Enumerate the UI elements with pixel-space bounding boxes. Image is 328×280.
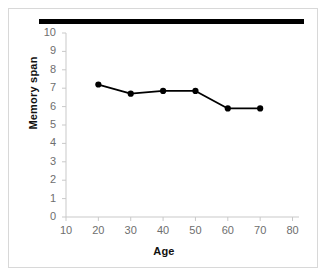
x-tick-label: 80 <box>281 224 305 236</box>
y-tick-label: 5 <box>34 118 56 130</box>
axis-lines <box>66 33 299 217</box>
y-tick-label: 10 <box>34 26 56 38</box>
y-tick-label: 4 <box>34 136 56 148</box>
x-tick-label: 40 <box>151 224 175 236</box>
x-tick-label: 70 <box>248 224 272 236</box>
x-axis-label: Age <box>9 245 319 257</box>
y-tick-label: 1 <box>34 192 56 204</box>
y-tick-label: 0 <box>34 210 56 222</box>
y-tick-label: 2 <box>34 173 56 185</box>
series-markers <box>95 81 263 111</box>
x-tick-label: 30 <box>119 224 143 236</box>
y-tick-label: 9 <box>34 44 56 56</box>
figure-panel: Memory span Age 012345678910 10203040506… <box>8 8 318 268</box>
x-tick-label: 50 <box>183 224 207 236</box>
y-axis-ticks <box>62 33 66 217</box>
series-line-path <box>98 85 260 109</box>
y-tick-label: 7 <box>34 81 56 93</box>
x-tick-label: 10 <box>54 224 78 236</box>
x-tick-label: 20 <box>86 224 110 236</box>
y-tick-label: 8 <box>34 63 56 75</box>
chart-plot-area: Memory span Age 012345678910 10203040506… <box>9 9 319 269</box>
x-tick-label: 60 <box>216 224 240 236</box>
y-tick-label: 3 <box>34 155 56 167</box>
x-axis-ticks <box>66 217 293 221</box>
y-tick-label: 6 <box>34 100 56 112</box>
